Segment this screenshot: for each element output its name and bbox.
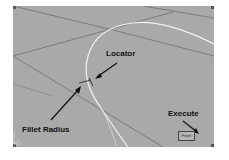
execute-button[interactable]: Finish [178,131,195,141]
execute-callout: Execute [168,109,199,118]
fillet-radius-callout: Fillet Radius [22,125,70,134]
viewport-corner-handle [211,6,214,9]
viewport-corner-handle [13,6,16,9]
locator-callout: Locator [106,49,135,58]
viewport-corner-handle [211,144,214,147]
execute-button-label: Finish [182,134,191,138]
